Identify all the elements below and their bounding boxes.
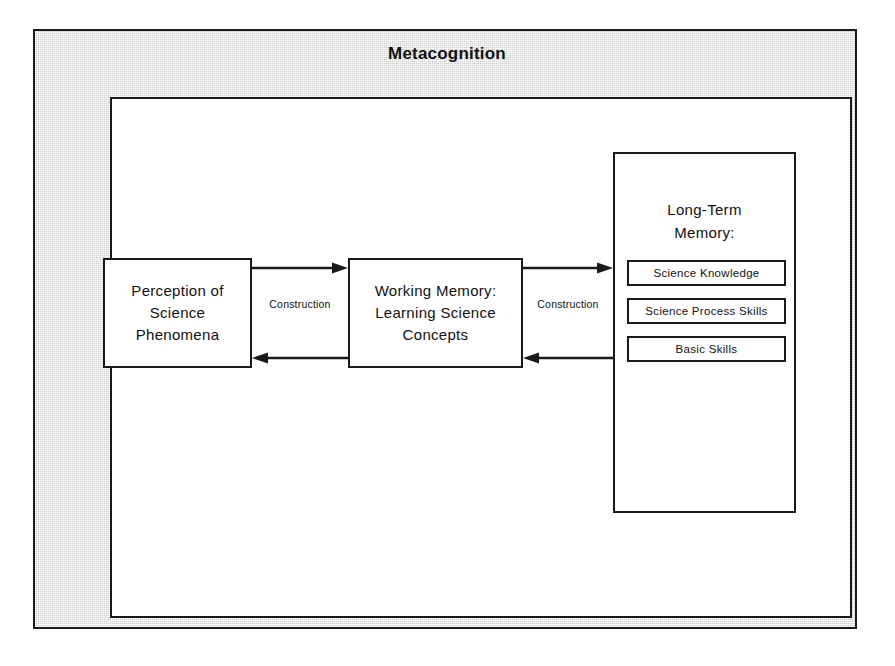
node-perception: Perception of Science Phenomena bbox=[103, 258, 252, 368]
ltm-item-science-process-skills: Science Process Skills bbox=[627, 298, 786, 324]
node-perception-label: Perception of Science Phenomena bbox=[131, 280, 223, 346]
node-working-memory: Working Memory: Learning Science Concept… bbox=[348, 258, 523, 368]
connector-working-memory-long-term-memory bbox=[523, 258, 613, 368]
connector-label-construction-right: Construction bbox=[526, 298, 610, 310]
arrow-forward-head bbox=[332, 263, 348, 274]
connector-perception-working-memory bbox=[252, 258, 348, 368]
long-term-memory-item-list: Science Knowledge Science Process Skills… bbox=[627, 260, 786, 374]
connector-label-construction-left: Construction bbox=[256, 298, 344, 310]
arrow-forward-head bbox=[597, 263, 613, 274]
arrow-return-head bbox=[523, 353, 539, 364]
node-long-term-memory-label: Long-Term Memory: bbox=[615, 198, 794, 244]
node-working-memory-label: Working Memory: Learning Science Concept… bbox=[375, 280, 497, 346]
diagram-canvas: Metacognition Metacognition Perception o… bbox=[0, 0, 895, 666]
arrow-return-head bbox=[252, 353, 268, 364]
ltm-item-science-knowledge: Science Knowledge bbox=[627, 260, 786, 286]
metacognition-label-top: Metacognition bbox=[35, 44, 859, 64]
ltm-item-basic-skills: Basic Skills bbox=[627, 336, 786, 362]
node-long-term-memory: Long-Term Memory: Science Knowledge Scie… bbox=[613, 152, 796, 513]
